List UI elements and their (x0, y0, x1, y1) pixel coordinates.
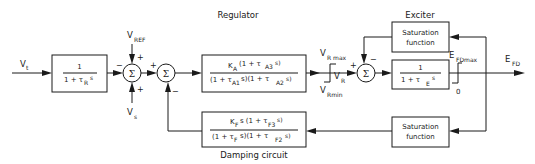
svg-text:R: R (84, 79, 88, 86)
svg-text:−: − (370, 55, 377, 64)
svg-text:s): s) (277, 116, 282, 123)
svg-text:Σ: Σ (129, 69, 135, 79)
svg-text:s)(1 + τ: s)(1 + τ (241, 75, 269, 83)
svg-text:V: V (320, 85, 326, 95)
svg-text:s: s (432, 74, 435, 81)
svg-text:function: function (406, 39, 435, 47)
arrow-icon (514, 70, 525, 76)
arrow-icon (113, 70, 123, 76)
summing-junction-2: Σ + − (150, 61, 179, 96)
exciter-saturation-block: Saturation function (392, 22, 449, 52)
svg-text:(1 + τ: (1 + τ (210, 76, 232, 84)
input-vs: V s (127, 82, 137, 120)
arrow-icon (347, 70, 357, 76)
arrow-icon (165, 82, 171, 92)
svg-text:1: 1 (418, 64, 422, 72)
arrow-icon (42, 70, 52, 76)
svg-text:s: s (90, 74, 93, 81)
arrow-icon (382, 70, 392, 76)
svg-text:A2: A2 (276, 79, 284, 86)
svg-text:1 + τ: 1 + τ (64, 76, 83, 84)
transducer-block: 1 1 + τ R s (52, 55, 107, 92)
svg-text:s)(1 + τ: s)(1 + τ (240, 132, 268, 140)
svg-text:s): s) (286, 75, 291, 82)
svg-text:+: + (137, 53, 144, 62)
svg-text:V: V (127, 107, 133, 117)
svg-text:V: V (334, 71, 340, 81)
svg-text:V: V (320, 48, 326, 58)
svg-text:0: 0 (456, 88, 460, 96)
arrow-icon (310, 70, 320, 76)
svg-text:+: + (150, 61, 157, 70)
svg-text:−: − (116, 61, 123, 70)
arrow-icon (129, 82, 135, 92)
arrow-icon (449, 34, 459, 40)
svg-text:R max: R max (327, 54, 347, 61)
svg-text:F: F (235, 121, 239, 128)
damping-circuit-block: K F s (1 + τ F3 s) (1 + τ F s)(1 + τ F2 … (202, 112, 306, 147)
svg-text:F2: F2 (275, 136, 282, 143)
svg-text:Σ: Σ (163, 69, 169, 79)
svg-text:function: function (406, 133, 435, 141)
svg-text:+: + (350, 61, 357, 70)
svg-text:E: E (426, 80, 430, 87)
excitation-system-block-diagram: Regulator Exciter Damping circuit V t 1 … (0, 0, 535, 164)
svg-text:−: − (172, 87, 179, 96)
svg-text:E: E (505, 54, 510, 64)
arrow-icon (147, 70, 157, 76)
arrow-icon (306, 128, 316, 134)
svg-text:s): s) (275, 59, 280, 66)
svg-text:V: V (127, 30, 133, 40)
regulator-block: K A (1 + τ A3 s) (1 + τ A1 s)(1 + τ A2 s… (202, 55, 306, 92)
svg-text:Σ: Σ (363, 69, 369, 79)
svg-text:FDmax: FDmax (456, 56, 478, 63)
svg-text:+: + (137, 85, 144, 94)
exciter-title: Exciter (405, 10, 435, 20)
input-vt: V t (12, 59, 52, 76)
arrow-icon (449, 128, 459, 134)
svg-text:s): s) (285, 132, 290, 139)
svg-text:A1: A1 (232, 79, 240, 86)
feedback-saturation-block: Saturation function (392, 117, 449, 147)
svg-text:(1 + τ: (1 + τ (212, 133, 234, 141)
svg-text:R: R (341, 77, 345, 84)
svg-text:Saturation: Saturation (402, 123, 439, 131)
svg-text:Saturation: Saturation (402, 29, 439, 37)
svg-text:1: 1 (77, 63, 81, 71)
svg-text:A3: A3 (265, 63, 273, 70)
arrow-icon (192, 70, 202, 76)
svg-text:t: t (26, 64, 29, 71)
svg-text:s: s (134, 113, 137, 120)
svg-text:Rmin: Rmin (327, 91, 343, 98)
svg-text:FD: FD (512, 60, 520, 67)
svg-text:F3: F3 (268, 121, 275, 128)
svg-text:s (1 + τ: s (1 + τ (240, 117, 268, 125)
arrow-icon (361, 54, 367, 64)
svg-text:REF: REF (134, 36, 146, 43)
regulator-title: Regulator (217, 10, 259, 20)
svg-text:1 + τ: 1 + τ (401, 76, 420, 84)
damping-circuit-title: Damping circuit (220, 150, 288, 160)
arrow-icon (129, 54, 135, 64)
exciter-block: 1 1 + τ E s (392, 60, 449, 89)
svg-text:E: E (449, 50, 454, 60)
svg-text:(1 + τ: (1 + τ (239, 60, 261, 68)
svg-text:F: F (234, 136, 238, 143)
